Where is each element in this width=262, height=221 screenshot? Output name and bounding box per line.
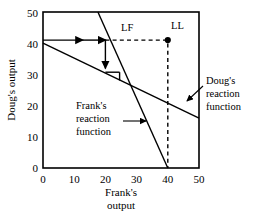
x-tick-50: 50 <box>194 173 206 185</box>
y-tick-40: 40 <box>27 38 39 50</box>
annotation-dougs-leader-arrow <box>187 86 203 101</box>
x-tick-40: 40 <box>162 173 174 185</box>
x-axis-title-line2: output <box>107 199 135 211</box>
y-tick-10: 10 <box>27 131 39 143</box>
annotation-dougs-line1: Doug's <box>206 75 235 86</box>
dougs-reaction-function-line <box>43 43 199 118</box>
y-axis-title: Doug's output <box>5 59 17 121</box>
x-tick-30: 30 <box>131 173 143 185</box>
x-tick-0: 0 <box>40 173 46 185</box>
annotation-franks-line1: Frank's <box>76 100 106 111</box>
cournot-reaction-function-chart: 50 40 30 20 10 0 0 10 20 30 40 50 Frank'… <box>0 0 262 221</box>
y-tick-50: 50 <box>27 7 39 19</box>
annotation-dougs-line2: reaction <box>206 88 241 99</box>
annotation-franks-line2: reaction <box>76 113 111 124</box>
y-tick-30: 30 <box>27 69 39 81</box>
franks-reaction-function-line <box>98 12 168 168</box>
plot-frame <box>43 12 199 168</box>
y-tick-20: 20 <box>27 100 39 112</box>
label-lf: LF <box>121 22 133 33</box>
ll-point-marker <box>165 37 171 43</box>
annotation-dougs-line3: function <box>206 101 242 112</box>
annotation-franks-line3: function <box>76 126 112 137</box>
label-ll: LL <box>171 20 184 31</box>
x-tick-20: 20 <box>100 173 112 185</box>
x-axis-title-line1: Frank's <box>105 186 137 198</box>
x-tick-10: 10 <box>69 173 81 185</box>
y-tick-0: 0 <box>33 162 39 174</box>
chart-canvas: 50 40 30 20 10 0 0 10 20 30 40 50 Frank'… <box>0 0 262 221</box>
